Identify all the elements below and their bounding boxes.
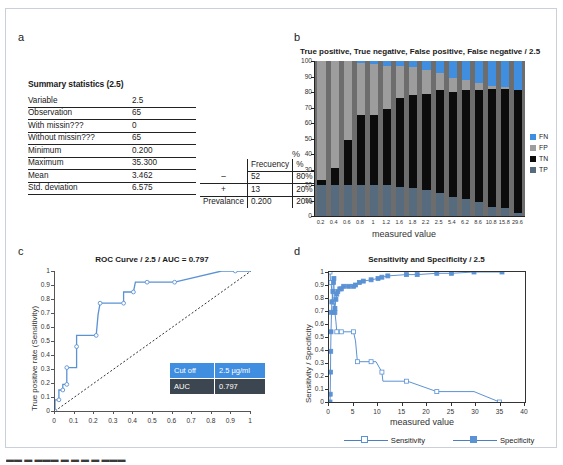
bar-segment-fn	[357, 61, 365, 63]
panel-d-x-tick	[475, 403, 476, 406]
bar-segment-tn	[514, 90, 522, 212]
panel-b-x-tick-label: 1	[366, 219, 380, 225]
bar-segment-fn	[383, 61, 391, 66]
stacked-bar	[344, 61, 352, 216]
stats-value: 3.462	[132, 170, 196, 183]
panel-b-x-tick-label: 0.2	[314, 219, 328, 225]
stats-row: Without missin???65	[28, 132, 196, 145]
panel-c-y-tick-label: 1	[32, 267, 50, 274]
roc-data-point	[98, 301, 102, 305]
panel-d-x-tick-label: 20	[418, 408, 434, 415]
bar-segment-fp	[475, 83, 483, 91]
stats-value: 0	[132, 120, 196, 133]
panel-c-y-tick	[51, 341, 54, 342]
legend-label: TP	[539, 166, 548, 173]
panel-b-y-tick-label: 0	[292, 212, 312, 219]
bar-segment-tn	[422, 94, 430, 190]
stats-label: Without missin???	[28, 132, 132, 145]
bar-segment-tp	[436, 193, 444, 216]
panel-d-x-tick-label: 5	[345, 408, 361, 415]
panel-d-x-tick	[402, 403, 403, 406]
bar-segment-tn	[449, 92, 457, 197]
panel-d-x-tick-label: 15	[394, 408, 410, 415]
stacked-bar	[317, 61, 325, 216]
panel-c-x-tick	[74, 411, 75, 414]
figure-container: a Summary statistics (2.5) Variable2.5Ob…	[5, 8, 557, 448]
sensitivity-marker	[380, 370, 384, 374]
panel-letter-d: d	[294, 245, 300, 257]
bar-segment-tn	[331, 168, 339, 185]
panel-d-y-tick	[325, 311, 328, 312]
panel-b-x-axis-title: measured value	[372, 229, 436, 239]
specificity-line	[330, 272, 502, 402]
bar-segment-fn	[475, 61, 483, 83]
frequency-cell: Prevalance	[200, 196, 247, 208]
bar-segment-fp	[383, 66, 391, 109]
panel-c-x-tick-label: 0.1	[66, 417, 82, 424]
panel-d-y-tick	[325, 363, 328, 364]
bar-segment-tp	[475, 202, 483, 216]
legend-line	[453, 440, 497, 441]
bar-segment-tp	[370, 185, 378, 216]
sensitivity-marker	[352, 330, 356, 334]
legend-label: TN	[539, 155, 548, 162]
panel-d-x-tick	[426, 403, 427, 406]
legend-item-fp: FP	[530, 142, 560, 153]
specificity-marker	[380, 275, 384, 279]
specificity-marker	[342, 284, 346, 288]
panel-c-x-tick-label: 0.8	[203, 417, 219, 424]
panel-c-x-tick-label: 0.5	[144, 417, 160, 424]
panel-b-x-tick-label: 0.4	[327, 219, 341, 225]
bar-segment-fn	[449, 61, 457, 78]
bar-segment-tp	[409, 188, 417, 216]
frequency-cell: 13	[247, 184, 292, 197]
roc-anno-label-0: Cut off	[170, 363, 214, 378]
specificity-marker	[435, 272, 439, 275]
panel-d-x-tick-label: 0	[320, 408, 336, 415]
specificity-marker	[354, 283, 358, 287]
panel-d-title: Sensitivity and Specificity / 2.5	[324, 255, 529, 264]
panel-b-y-tick	[311, 77, 314, 78]
panel-c-x-tick-label: 0.4	[124, 417, 140, 424]
bar-segment-tp	[317, 185, 325, 216]
stacked-bar	[449, 61, 457, 216]
stats-value: 65	[132, 107, 196, 120]
panel-letter-c: c	[18, 245, 24, 257]
roc-data-point	[55, 409, 57, 411]
bar-segment-tp	[501, 208, 509, 216]
stats-value: 2.5	[132, 95, 196, 107]
sensitivity-marker	[435, 390, 439, 394]
sensitivity-marker	[498, 400, 502, 402]
bar-segment-fp	[409, 67, 417, 95]
specificity-marker	[331, 280, 335, 284]
panel-c-y-tick	[51, 355, 54, 356]
panel-b-y-tick	[311, 92, 314, 93]
roc-data-point	[65, 366, 69, 370]
bar-segment-tn	[383, 109, 391, 185]
bar-segment-tn	[436, 90, 444, 192]
panel-b-x-tick-label: 29.6	[510, 219, 524, 225]
specificity-marker	[332, 277, 336, 281]
bar-segment-tp	[344, 185, 352, 216]
panel-d-legend: SensitivitySpecificity	[334, 433, 544, 447]
bar-segment-tn	[344, 140, 352, 185]
panel-b-x-tick-label: 8.6	[471, 219, 485, 225]
panel-b-x-tick-label: 1.6	[392, 219, 406, 225]
panel-c-y-tick	[51, 327, 54, 328]
bar-segment-fp	[501, 87, 509, 89]
frequency-cell: 52	[247, 171, 292, 184]
bar-segment-fp	[396, 66, 404, 99]
panel-c-x-tick-label: 0.7	[183, 417, 199, 424]
bar-segment-tp	[396, 187, 404, 216]
panel-b-y-tick	[311, 108, 314, 109]
panel-c-y-tick	[51, 313, 54, 314]
sensitivity-marker	[335, 330, 339, 334]
specificity-marker	[361, 279, 365, 283]
bar-segment-fn	[501, 61, 509, 87]
stats-label: Minimum	[28, 145, 132, 158]
sensitivity-marker	[404, 379, 408, 383]
panel-c-y-tick-label: 0.8	[32, 295, 50, 302]
sensitivity-marker	[329, 272, 332, 274]
legend-item-tp: TP	[530, 164, 560, 175]
roc-data-point	[65, 383, 69, 387]
